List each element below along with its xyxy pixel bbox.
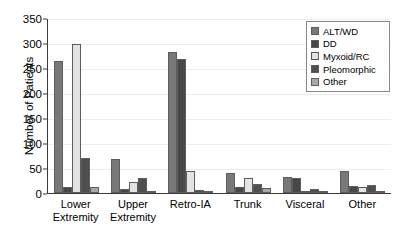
legend-item: DD bbox=[311, 38, 385, 51]
bar bbox=[129, 182, 138, 193]
bar bbox=[168, 52, 177, 194]
y-tick-label: 250 bbox=[23, 63, 42, 75]
bar bbox=[81, 158, 90, 193]
legend-swatch-icon bbox=[311, 40, 319, 48]
bar bbox=[72, 44, 81, 193]
bar bbox=[63, 187, 72, 194]
bar bbox=[120, 189, 129, 193]
legend-swatch-icon bbox=[311, 27, 319, 35]
legend-swatch-icon bbox=[311, 52, 319, 60]
legend-item: Myxoid/RC bbox=[311, 50, 385, 63]
y-tick-label: 350 bbox=[23, 13, 42, 25]
legend-label: DD bbox=[323, 38, 337, 49]
legend-label: Pleomorphic bbox=[323, 64, 376, 75]
bar bbox=[138, 178, 147, 193]
bar-group bbox=[162, 19, 219, 193]
legend-item: ALT/WD bbox=[311, 25, 385, 38]
x-tick-label: Retro-IA bbox=[162, 196, 219, 242]
bar bbox=[147, 191, 156, 194]
x-tick-label: UpperExtremity bbox=[104, 196, 161, 242]
bar bbox=[340, 171, 349, 194]
y-tick-label: 300 bbox=[23, 38, 42, 50]
bar-set bbox=[220, 19, 277, 193]
bar-set bbox=[48, 19, 105, 193]
bar bbox=[244, 178, 253, 193]
bar bbox=[283, 177, 292, 194]
y-axis-ticks: 050100150200250300350 bbox=[0, 19, 47, 194]
bar bbox=[358, 187, 367, 194]
legend: ALT/WDDDMyxoid/RCPleomorphicOther bbox=[306, 21, 390, 92]
bar bbox=[319, 191, 328, 193]
bar-group bbox=[48, 19, 105, 193]
bar bbox=[111, 159, 120, 193]
bar bbox=[262, 188, 271, 194]
legend-item: Pleomorphic bbox=[311, 63, 385, 76]
bar bbox=[367, 185, 376, 194]
y-tick-label: 100 bbox=[23, 138, 42, 150]
bar bbox=[253, 184, 262, 193]
y-tick-label: 0 bbox=[36, 188, 42, 200]
x-axis-labels: LowerExtremityUpperExtremityRetro-IATrun… bbox=[47, 196, 391, 242]
bar bbox=[226, 173, 235, 193]
y-tick-label: 50 bbox=[29, 163, 42, 175]
bar bbox=[54, 61, 63, 194]
bar bbox=[90, 187, 99, 193]
bar bbox=[235, 187, 244, 194]
x-tick-label: Other bbox=[334, 196, 391, 242]
bar bbox=[292, 178, 301, 194]
bar bbox=[376, 191, 385, 194]
legend-label: Myxoid/RC bbox=[323, 51, 369, 62]
x-tick-label: Visceral bbox=[276, 196, 333, 242]
bar-group bbox=[220, 19, 277, 193]
y-tick-label: 150 bbox=[23, 113, 42, 125]
legend-item: Other bbox=[311, 75, 385, 88]
legend-label: ALT/WD bbox=[323, 26, 358, 37]
bar-set bbox=[162, 19, 219, 193]
bar bbox=[301, 191, 310, 194]
legend-label: Other bbox=[323, 76, 347, 87]
bar bbox=[310, 189, 319, 194]
bar-set bbox=[105, 19, 162, 193]
legend-swatch-icon bbox=[311, 78, 319, 86]
bar bbox=[177, 59, 186, 193]
bar bbox=[349, 186, 358, 194]
y-tick-label: 200 bbox=[23, 88, 42, 100]
bar-group bbox=[105, 19, 162, 193]
x-tick-label: Trunk bbox=[219, 196, 276, 242]
x-tick-label: LowerExtremity bbox=[47, 196, 104, 242]
legend-swatch-icon bbox=[311, 65, 319, 73]
bar-chart: Number of Patients 050100150200250300350… bbox=[0, 0, 408, 251]
bar bbox=[204, 191, 213, 193]
bar bbox=[195, 190, 204, 193]
bar bbox=[186, 171, 195, 194]
